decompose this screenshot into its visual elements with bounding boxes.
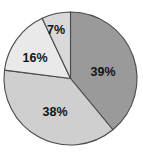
pie-slices-group bbox=[4, 12, 137, 145]
slice-7-label: 7% bbox=[47, 23, 65, 37]
slice-38-label: 38% bbox=[42, 105, 67, 119]
slice-16-label: 16% bbox=[22, 51, 47, 65]
slice-39-label: 39% bbox=[90, 65, 115, 79]
pie-chart: 39%38%16%7% bbox=[0, 0, 143, 155]
pie-chart-canvas: 39%38%16%7% bbox=[0, 0, 143, 155]
